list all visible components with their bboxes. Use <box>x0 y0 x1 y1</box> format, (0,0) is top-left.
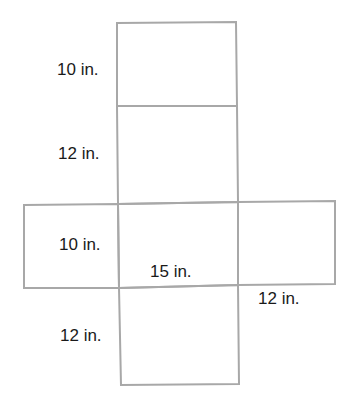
label-right-face-width: 12 in. <box>258 289 300 309</box>
label-top-face-height: 10 in. <box>57 60 99 80</box>
label-base-width: 15 in. <box>150 262 192 282</box>
top-face <box>117 22 237 106</box>
right-face <box>238 201 335 285</box>
front-face <box>117 106 238 204</box>
bottom-face <box>119 285 239 385</box>
prism-net <box>0 0 351 404</box>
label-bottom-face-height: 12 in. <box>60 326 102 346</box>
label-front-face-height: 12 in. <box>58 144 100 164</box>
label-side-face-height: 10 in. <box>59 235 101 255</box>
